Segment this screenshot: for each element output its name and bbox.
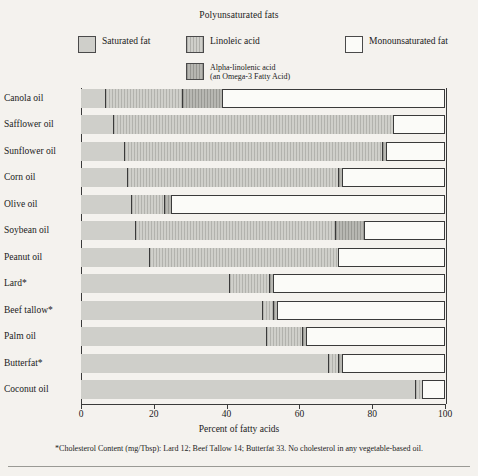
bar-row bbox=[81, 274, 445, 293]
bar-saturated-segment bbox=[81, 248, 150, 267]
y-axis-label-safflower-oil: Safflower oil bbox=[4, 119, 77, 129]
y-axis-label-butterfat: Butterfat* bbox=[4, 358, 77, 368]
y-axis-label-olive-oil: Olive oil bbox=[4, 199, 77, 209]
bar-saturated-segment bbox=[81, 301, 263, 320]
bar-alpha-linolenic-segment bbox=[336, 221, 365, 240]
bar-row bbox=[81, 221, 445, 240]
x-axis-line bbox=[81, 404, 445, 405]
bottom-rule-divider bbox=[8, 466, 470, 467]
bar-linoleic-segment bbox=[230, 274, 270, 293]
bar-row bbox=[81, 195, 445, 214]
x-axis-tick-label-80: 80 bbox=[352, 409, 392, 419]
x-axis-tick-label-0: 0 bbox=[61, 409, 101, 419]
bar-alpha-linolenic-segment bbox=[303, 327, 307, 346]
bar-linoleic-segment bbox=[267, 327, 303, 346]
x-axis-tick-label-20: 20 bbox=[134, 409, 174, 419]
bar-alpha-linolenic-segment bbox=[270, 274, 274, 293]
bar-alpha-linolenic-segment bbox=[274, 301, 278, 320]
y-axis-label-lard: Lard* bbox=[4, 278, 77, 288]
bar-linoleic-segment bbox=[329, 354, 340, 373]
bar-saturated-segment bbox=[81, 380, 416, 399]
bar-linoleic-segment bbox=[125, 142, 383, 161]
bar-linoleic-segment bbox=[263, 301, 274, 320]
y-axis-label-canola-oil: Canola oil bbox=[4, 93, 77, 103]
y-axis-label-peanut-oil: Peanut oil bbox=[4, 252, 77, 262]
x-axis-label: Percent of fatty acids bbox=[0, 424, 478, 434]
bar-row bbox=[81, 301, 445, 320]
bar-row bbox=[81, 115, 445, 134]
x-axis-tick-label-60: 60 bbox=[279, 409, 319, 419]
bar-alpha-linolenic-segment bbox=[383, 142, 387, 161]
chart-footnote: *Cholesterol Content (mg/Tbsp): Lard 12;… bbox=[0, 444, 478, 453]
bar-linoleic-segment bbox=[416, 380, 423, 399]
bar-saturated-segment bbox=[81, 142, 125, 161]
bar-saturated-segment bbox=[81, 115, 114, 134]
bar-row bbox=[81, 248, 445, 267]
y-axis-label-coconut-oil: Coconut oil bbox=[4, 384, 77, 394]
bar-saturated-segment bbox=[81, 274, 230, 293]
x-axis-tick-label-40: 40 bbox=[207, 409, 247, 419]
bar-row bbox=[81, 380, 445, 399]
bar-saturated-segment bbox=[81, 354, 329, 373]
y-axis-label-beef-tallow: Beef tallow* bbox=[4, 305, 77, 315]
bar-linoleic-segment bbox=[128, 168, 339, 187]
bar-linoleic-segment bbox=[106, 89, 182, 108]
bar-row bbox=[81, 327, 445, 346]
bar-alpha-linolenic-segment bbox=[339, 354, 343, 373]
bar-alpha-linolenic-segment bbox=[165, 195, 172, 214]
bar-linoleic-segment bbox=[114, 115, 394, 134]
y-axis-label-sunflower-oil: Sunflower oil bbox=[4, 146, 77, 156]
chart-figure: Polyunsaturated fats Saturated fat Linol… bbox=[0, 0, 478, 476]
bar-row bbox=[81, 168, 445, 187]
bar-row bbox=[81, 354, 445, 373]
y-axis-label-palm-oil: Palm oil bbox=[4, 331, 77, 341]
bar-alpha-linolenic-segment bbox=[183, 89, 223, 108]
bar-row bbox=[81, 142, 445, 161]
bar-saturated-segment bbox=[81, 195, 132, 214]
bar-saturated-segment bbox=[81, 221, 136, 240]
bar-saturated-segment bbox=[81, 327, 267, 346]
bar-alpha-linolenic-segment bbox=[339, 168, 343, 187]
bar-linoleic-segment bbox=[136, 221, 336, 240]
y-axis-label-soybean-oil: Soybean oil bbox=[4, 225, 77, 235]
bar-saturated-segment bbox=[81, 89, 106, 108]
bar-linoleic-segment bbox=[132, 195, 165, 214]
bar-linoleic-segment bbox=[150, 248, 339, 267]
x-axis-tick-label-100: 100 bbox=[425, 409, 465, 419]
y-axis-label-corn-oil: Corn oil bbox=[4, 172, 77, 182]
bar-row bbox=[81, 89, 445, 108]
bar-saturated-segment bbox=[81, 168, 128, 187]
